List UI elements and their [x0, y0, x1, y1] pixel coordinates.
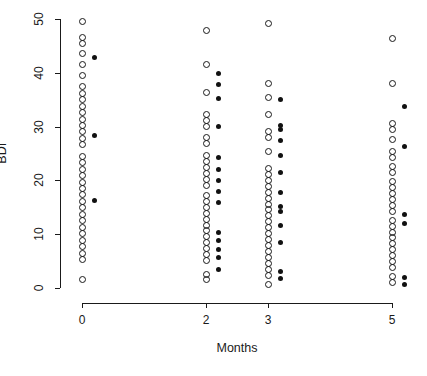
data-point-open: [79, 172, 86, 179]
x-axis-tick-label: 3: [253, 314, 283, 326]
data-point-open: [79, 83, 86, 90]
y-axis-tick-label: 50: [33, 6, 45, 32]
data-point-filled: [278, 240, 283, 245]
data-point-filled: [216, 178, 221, 183]
y-axis-tick: [55, 19, 60, 20]
data-point-filled: [216, 200, 221, 205]
x-axis-line: [82, 303, 392, 304]
data-point-open: [79, 276, 86, 283]
data-point-open: [79, 256, 86, 263]
data-point-open: [79, 50, 86, 57]
data-point-filled: [402, 104, 407, 109]
data-point-filled: [278, 223, 283, 228]
data-point-filled: [216, 255, 221, 260]
data-point-open: [265, 272, 272, 279]
data-point-open: [265, 148, 272, 155]
data-point-open: [79, 40, 86, 47]
data-point-filled: [402, 275, 407, 280]
x-axis-tick-label: 5: [377, 314, 407, 326]
data-point-open: [203, 61, 210, 68]
data-point-open: [389, 208, 396, 215]
data-point-open: [203, 89, 210, 96]
data-point-open: [265, 134, 272, 141]
data-point-open: [389, 126, 396, 133]
data-point-filled: [278, 204, 283, 209]
x-axis-tick-label: 0: [67, 314, 97, 326]
data-point-open: [203, 257, 210, 264]
y-axis-tick: [55, 127, 60, 128]
data-point-filled: [92, 133, 97, 138]
data-point-filled: [402, 282, 407, 287]
y-axis-tick: [55, 234, 60, 235]
data-point-open: [389, 80, 396, 87]
x-axis-tick: [82, 303, 83, 308]
y-axis-tick-label: 20: [33, 167, 45, 193]
x-axis-tick: [268, 303, 269, 308]
y-axis-tick: [55, 288, 60, 289]
data-point-filled: [216, 96, 221, 101]
data-point-filled: [216, 71, 221, 76]
data-point-open: [389, 169, 396, 176]
data-point-filled: [92, 198, 97, 203]
data-point-filled: [402, 144, 407, 149]
data-point-open: [79, 61, 86, 68]
data-point-open: [265, 94, 272, 101]
data-point-filled: [216, 247, 221, 252]
data-point-filled: [216, 267, 221, 272]
data-point-filled: [278, 190, 283, 195]
x-axis-title: Months: [177, 342, 297, 355]
y-axis-line: [60, 19, 61, 288]
data-point-open: [203, 276, 210, 283]
data-point-filled: [216, 124, 221, 129]
data-point-filled: [92, 55, 97, 60]
y-axis-tick-label: 10: [33, 221, 45, 247]
data-point-open: [79, 141, 86, 148]
data-point-filled: [278, 153, 283, 158]
data-point-open: [265, 20, 272, 27]
y-axis-tick-label: 0: [33, 275, 45, 301]
data-point-open: [203, 27, 210, 34]
data-point-filled: [216, 238, 221, 243]
data-point-open: [389, 264, 396, 271]
data-point-open: [79, 18, 86, 25]
data-point-open: [265, 80, 272, 87]
scatter-plot-figure: 01020304050BDI0235Months: [0, 0, 427, 376]
data-point-open: [389, 35, 396, 42]
y-axis-tick-label: 30: [33, 114, 45, 140]
data-point-open: [265, 111, 272, 118]
data-point-open: [203, 182, 210, 189]
data-point-open: [389, 154, 396, 161]
data-point-filled: [402, 212, 407, 217]
y-axis-title: BDI: [0, 123, 8, 183]
y-axis-tick: [55, 73, 60, 74]
data-point-open: [265, 281, 272, 288]
data-point-filled: [402, 221, 407, 226]
y-axis-tick-label: 40: [33, 60, 45, 86]
data-point-filled: [216, 189, 221, 194]
data-point-open: [203, 140, 210, 147]
data-point-open: [389, 279, 396, 286]
data-point-open: [389, 136, 396, 143]
x-axis-tick: [392, 303, 393, 308]
data-point-open: [203, 123, 210, 130]
data-point-filled: [278, 97, 283, 102]
data-point-filled: [216, 167, 221, 172]
data-point-filled: [278, 209, 283, 214]
y-axis-tick: [55, 180, 60, 181]
data-point-filled: [278, 269, 283, 274]
data-point-filled: [278, 138, 283, 143]
data-point-filled: [216, 230, 221, 235]
data-point-filled: [216, 155, 221, 160]
x-axis-tick-label: 2: [191, 314, 221, 326]
data-point-filled: [278, 276, 283, 281]
data-point-filled: [278, 170, 283, 175]
x-axis-tick: [206, 303, 207, 308]
data-point-filled: [278, 127, 283, 132]
data-point-open: [79, 72, 86, 79]
data-point-filled: [216, 82, 221, 87]
